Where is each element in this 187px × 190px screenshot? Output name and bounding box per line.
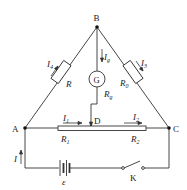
label-i4: I4 <box>46 59 53 70</box>
label-i2: I2 <box>132 112 139 123</box>
label-g: G <box>94 75 100 85</box>
label-c: C <box>173 124 179 134</box>
label-rg: Rg <box>103 89 113 100</box>
battery-icon <box>60 160 70 176</box>
label-ig: Ig <box>103 52 110 63</box>
arrowhead-i1-icon <box>78 122 82 125</box>
node-c <box>167 126 171 130</box>
label-r0: R0 <box>119 78 129 89</box>
arrowhead-i4-icon <box>55 66 59 70</box>
label-i1: I1 <box>62 113 69 124</box>
label-a: A <box>12 124 19 134</box>
circuit-diagram: B A C D G R R0 I4 I3 Ig Rg I1 I2 R1 R2 I… <box>0 0 187 190</box>
node-a <box>23 126 27 130</box>
slide-wire-rod <box>58 126 146 131</box>
label-i3: I3 <box>140 58 147 69</box>
arrowhead-i-icon <box>20 150 23 154</box>
label-emf: ε <box>62 177 66 187</box>
wire-switch-c <box>144 128 169 168</box>
label-r: R <box>65 79 72 89</box>
switch-k[interactable] <box>122 161 145 169</box>
label-b: B <box>94 13 100 23</box>
label-k: K <box>130 173 137 183</box>
label-i: I <box>13 154 18 164</box>
wire-a-battery <box>25 128 59 168</box>
label-r1: R1 <box>60 134 70 145</box>
label-d: D <box>94 116 101 126</box>
label-r2: R2 <box>130 134 140 145</box>
node-b <box>95 25 99 29</box>
